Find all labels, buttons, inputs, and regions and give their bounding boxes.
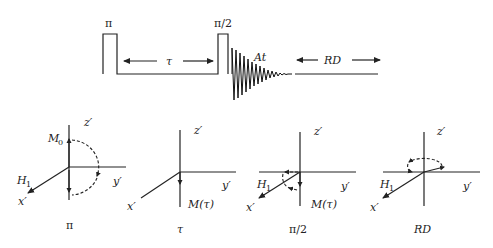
caption-rd: RD — [413, 223, 431, 236]
x-axis — [141, 172, 180, 198]
vector-diagram-pi-half: z′ y′ H 1 x′ M(τ) π/2 — [246, 125, 356, 236]
h1-subscript: 1 — [266, 184, 271, 193]
vector-diagram-tau: z′ y′ x′ M(τ) τ — [127, 124, 236, 236]
z-axis-label: z′ — [436, 125, 446, 138]
x-axis-label: x′ — [18, 195, 27, 208]
z-axis-label: z′ — [83, 116, 93, 129]
x-axis-label: x′ — [370, 201, 379, 214]
x-axis-label: x′ — [246, 201, 255, 214]
rd-label: RD — [323, 54, 341, 67]
x-axis-label: x′ — [127, 200, 136, 213]
x-axis-h1-field — [28, 167, 69, 193]
inversion-recovery-diagram: π π/2 τ At RD z′ M 0 y′ H 1 x′ π — [0, 0, 493, 248]
acquisition-time-label: At — [253, 51, 267, 64]
pi-pulse — [103, 34, 228, 74]
rotation-path-lower — [72, 178, 97, 195]
caption-pi: π — [66, 219, 73, 232]
h1-subscript: 1 — [26, 180, 31, 189]
h1-subscript: 1 — [389, 184, 394, 193]
y-axis-label: y′ — [112, 175, 122, 188]
rotation-path-lower — [289, 188, 297, 190]
vector-diagram-rd: z′ y′ H 1 x′ RD — [370, 125, 480, 236]
magnetization-vector — [424, 167, 444, 172]
rotation-path — [72, 140, 99, 176]
pi-pulse-label: π — [105, 17, 112, 30]
y-axis-label: y′ — [340, 180, 350, 193]
m-tau-label: M(τ) — [187, 198, 214, 211]
vector-diagram-pi: z′ M 0 y′ H 1 x′ π — [16, 116, 126, 232]
precession-path — [409, 158, 442, 166]
caption-pi-half: π/2 — [289, 223, 307, 236]
m-tau-label: M(τ) — [310, 198, 337, 211]
pi-half-pulse-label: π/2 — [214, 17, 232, 30]
caption-tau: τ — [177, 223, 184, 236]
m0-subscript: 0 — [58, 138, 63, 147]
y-axis-label: y′ — [462, 180, 472, 193]
z-axis-label: z′ — [193, 124, 203, 137]
y-axis-label: y′ — [221, 179, 231, 192]
pulse-sequence: π π/2 τ At RD — [103, 17, 380, 100]
z-axis-label: z′ — [313, 125, 323, 138]
tau-label: τ — [166, 55, 173, 68]
precession-path-lower — [408, 164, 412, 172]
